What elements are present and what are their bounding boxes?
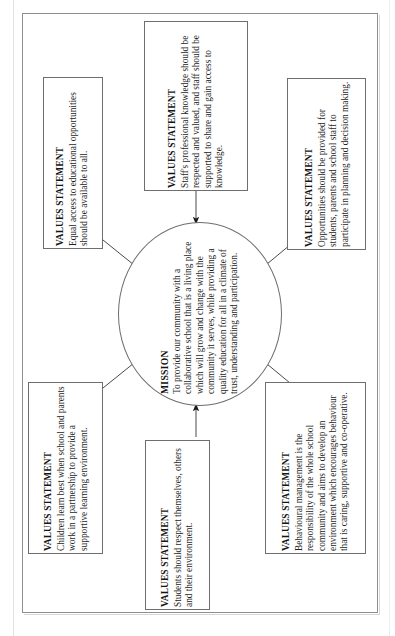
values-box-text: Opportunities should be provided for stu… xyxy=(316,81,350,247)
values-statement-box-bottom-middle[interactable]: VALUES STATEMENT Students should respect… xyxy=(145,440,210,610)
values-statement-box-top-right[interactable]: VALUES STATEMENT Opportunities should be… xyxy=(287,78,366,250)
values-box-heading: VALUES STATEMENT xyxy=(303,81,314,247)
diagram-canvas: VALUES STATEMENT Equal access to educati… xyxy=(0,0,395,636)
mission-heading: MISSION xyxy=(159,234,170,394)
page-edge-right xyxy=(389,0,390,636)
page-edge-left xyxy=(13,0,14,636)
values-box-text: Staff's professional knowledge should be… xyxy=(180,24,225,188)
values-statement-box-bottom-right[interactable]: VALUES STATEMENT Behavioural management … xyxy=(265,382,366,554)
mission-circle[interactable]: MISSION To provide our community with a … xyxy=(118,222,282,406)
values-box-text: Students should respect themselves, othe… xyxy=(173,443,196,607)
values-box-heading: VALUES STATEMENT xyxy=(42,385,53,551)
values-statement-box-bottom-left[interactable]: VALUES STATEMENT Children learn best whe… xyxy=(28,382,103,554)
values-box-heading: VALUES STATEMENT xyxy=(160,443,171,607)
values-box-text: Equal access to educational opportunitie… xyxy=(68,80,91,246)
values-statement-box-top-left[interactable]: VALUES STATEMENT Equal access to educati… xyxy=(43,77,103,249)
values-box-text: Children learn best when school and pare… xyxy=(55,385,89,551)
values-box-text: Behavioural management is the responsibi… xyxy=(294,385,350,551)
values-box-heading: VALUES STATEMENT xyxy=(281,385,292,551)
mission-text: To provide our community with a collabor… xyxy=(172,234,240,394)
values-box-heading: VALUES STATEMENT xyxy=(167,24,178,188)
values-statement-box-top-middle[interactable]: VALUES STATEMENT Staff's professional kn… xyxy=(144,21,248,191)
values-box-heading: VALUES STATEMENT xyxy=(55,80,66,246)
